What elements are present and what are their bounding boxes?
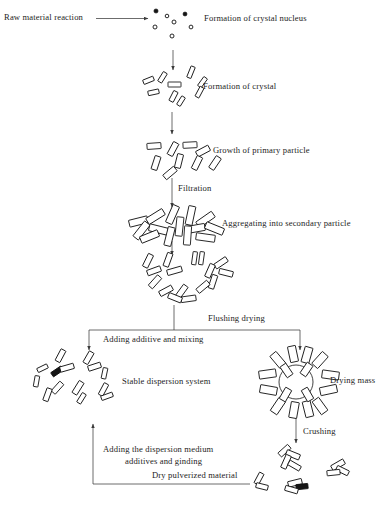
- label-filtration: Filtration: [178, 183, 212, 193]
- label-crystal-nucleus: Formation of crystal nucleus: [204, 13, 307, 23]
- label-secondary-particle: Aggregating into secondary particle: [222, 218, 351, 228]
- particles-fragments: [254, 444, 350, 494]
- label-crushing: Crushing: [303, 426, 336, 436]
- particles-loose-ring-cluster: [142, 251, 233, 303]
- label-stable-dispersion: Stable dispersion system: [122, 376, 211, 386]
- particles-medium-rods: [147, 141, 222, 179]
- particles-radial-cluster: [259, 345, 340, 418]
- particles-dispersed-rods: [33, 349, 113, 404]
- label-dispersion-medium-1: Adding the dispersion medium: [103, 444, 213, 454]
- particles-small-rods: [143, 66, 208, 107]
- label-drying-mass: Drying mass: [330, 375, 375, 385]
- label-raw-material: Raw material reaction: [4, 12, 83, 22]
- label-dry-pulverized: Dry pulverized material: [152, 470, 238, 480]
- particles-dense-aggregate: [128, 204, 224, 246]
- label-crystal-formation: Formation of crystal: [203, 81, 276, 91]
- label-primary-particle: Growth of primary particle: [213, 145, 310, 155]
- label-dispersion-medium-2: additives and ginding: [125, 456, 202, 466]
- flow-diagram-canvas: Raw material reaction Formation of cryst…: [0, 0, 386, 511]
- label-adding-additive: Adding additive and mixing: [103, 334, 204, 344]
- particles-nuclei-dots: [153, 9, 193, 38]
- label-flushing-drying: Flushing drying: [208, 313, 265, 323]
